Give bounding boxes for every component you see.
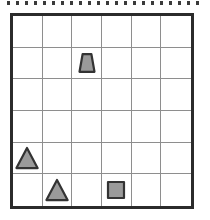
grid-cell-r5c2[interactable] <box>43 143 73 175</box>
trapezoid-icon <box>76 52 98 74</box>
grid-cell-r1c3[interactable] <box>72 16 102 48</box>
tick-mark <box>34 1 37 5</box>
grid-cell-r2c4[interactable] <box>102 48 132 80</box>
tick-mark <box>88 1 91 5</box>
grid-cell-r5c4[interactable] <box>102 143 132 175</box>
shape-grid-frame <box>10 13 194 209</box>
grid-cell-r1c5[interactable] <box>132 16 162 48</box>
grid-cell-r5c3[interactable] <box>72 143 102 175</box>
grid-cell-r5c1[interactable] <box>13 143 43 175</box>
tick-mark <box>187 1 190 5</box>
grid-cell-r4c4[interactable] <box>102 111 132 143</box>
tick-mark <box>115 1 118 5</box>
grid-cell-r3c4[interactable] <box>102 79 132 111</box>
tick-mark <box>16 1 19 5</box>
triangle-icon <box>15 146 39 170</box>
tick-mark <box>97 1 100 5</box>
tick-mark <box>7 1 10 5</box>
grid-cell-r1c6[interactable] <box>161 16 191 48</box>
tick-mark <box>25 1 28 5</box>
grid-cell-r4c3[interactable] <box>72 111 102 143</box>
grid-cell-r6c1[interactable] <box>13 174 43 206</box>
triangle-icon <box>45 178 69 202</box>
grid-cell-r6c2[interactable] <box>43 174 73 206</box>
square-icon <box>106 180 126 200</box>
tick-mark <box>124 1 127 5</box>
grid-cell-r3c5[interactable] <box>132 79 162 111</box>
tick-mark <box>178 1 181 5</box>
tick-mark <box>79 1 82 5</box>
grid-cell-r4c1[interactable] <box>13 111 43 143</box>
grid-cell-r5c6[interactable] <box>161 143 191 175</box>
tick-mark <box>196 1 199 5</box>
puzzle-root <box>0 0 210 220</box>
tick-mark <box>160 1 163 5</box>
grid-cell-r5c5[interactable] <box>132 143 162 175</box>
tick-mark <box>151 1 154 5</box>
grid-cell-r4c5[interactable] <box>132 111 162 143</box>
tick-mark <box>52 1 55 5</box>
grid-cell-r1c2[interactable] <box>43 16 73 48</box>
grid-cell-r2c2[interactable] <box>43 48 73 80</box>
grid-cell-r2c1[interactable] <box>13 48 43 80</box>
grid-cell-r2c6[interactable] <box>161 48 191 80</box>
tick-mark <box>133 1 136 5</box>
tick-mark <box>61 1 64 5</box>
grid-cell-r4c2[interactable] <box>43 111 73 143</box>
grid-cell-r3c3[interactable] <box>72 79 102 111</box>
grid-cell-r6c4[interactable] <box>102 174 132 206</box>
grid-cell-r6c6[interactable] <box>161 174 191 206</box>
tick-mark <box>43 1 46 5</box>
grid-cell-r4c6[interactable] <box>161 111 191 143</box>
shape-grid <box>13 16 191 206</box>
grid-cell-r3c2[interactable] <box>43 79 73 111</box>
grid-cell-r3c6[interactable] <box>161 79 191 111</box>
tick-mark <box>169 1 172 5</box>
grid-cell-r6c3[interactable] <box>72 174 102 206</box>
grid-cell-r2c3[interactable] <box>72 48 102 80</box>
tick-mark <box>70 1 73 5</box>
grid-cell-r3c1[interactable] <box>13 79 43 111</box>
grid-cell-r1c1[interactable] <box>13 16 43 48</box>
tick-mark <box>142 1 145 5</box>
top-tick-strip <box>0 0 210 9</box>
tick-mark <box>106 1 109 5</box>
grid-cell-r1c4[interactable] <box>102 16 132 48</box>
grid-cell-r6c5[interactable] <box>132 174 162 206</box>
grid-cell-r2c5[interactable] <box>132 48 162 80</box>
